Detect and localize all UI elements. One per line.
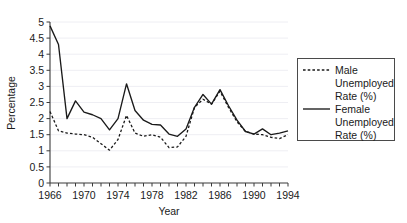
- x-tick-label: 1978: [140, 189, 164, 201]
- y-tick-label: 0: [38, 177, 44, 189]
- y-tick-label: 4: [38, 48, 44, 60]
- x-tick-label: 1974: [106, 189, 130, 201]
- series-line-female: [50, 26, 288, 136]
- y-axis-title: Percentage: [5, 76, 17, 130]
- legend-label-female-line2: Unemployed: [335, 116, 394, 128]
- legend: Male Unemployed Rate (%) Female Unemploy…: [298, 59, 395, 141]
- x-axis-tick-labels: 19661970197419781982198619901994: [38, 189, 300, 201]
- y-tick-label: 1: [38, 144, 44, 156]
- legend-label-male-line2: Unemployed: [335, 77, 394, 89]
- y-tick-label: 2.5: [29, 96, 44, 108]
- line-chart: 00.511.522.533.544.55 196619701974197819…: [0, 0, 407, 223]
- legend-label-male-line1: Male: [335, 64, 358, 76]
- x-tick-label: 1994: [276, 189, 300, 201]
- y-tick-label: 5: [38, 16, 44, 28]
- y-tick-label: 2: [38, 112, 44, 124]
- y-axis-tick-labels: 00.511.522.533.544.55: [29, 16, 44, 189]
- y-tick-label: 1.5: [29, 128, 44, 140]
- x-tick-label: 1982: [174, 189, 198, 201]
- y-tick-label: 4.5: [29, 32, 44, 44]
- legend-label-female-line3: Rate (%): [335, 129, 376, 141]
- y-tick-label: 0.5: [29, 161, 44, 173]
- series-line-male: [50, 91, 288, 150]
- x-tick-label: 1986: [208, 189, 232, 201]
- legend-label-male-line3: Rate (%): [335, 90, 376, 102]
- chart-figure: 00.511.522.533.544.55 196619701974197819…: [0, 0, 407, 223]
- x-tick-label: 1966: [38, 189, 62, 201]
- y-tick-label: 3.5: [29, 64, 44, 76]
- gridlines: [50, 22, 288, 167]
- y-tick-label: 3: [38, 80, 44, 92]
- legend-label-female-line1: Female: [335, 103, 370, 115]
- x-tick-label: 1990: [242, 189, 266, 201]
- x-axis-title: Year: [158, 205, 180, 217]
- x-tick-label: 1970: [72, 189, 96, 201]
